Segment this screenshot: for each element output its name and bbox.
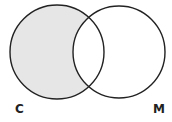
venn-diagram: C M (0, 0, 172, 122)
label-m: M (153, 102, 165, 116)
label-c: C (15, 102, 24, 116)
